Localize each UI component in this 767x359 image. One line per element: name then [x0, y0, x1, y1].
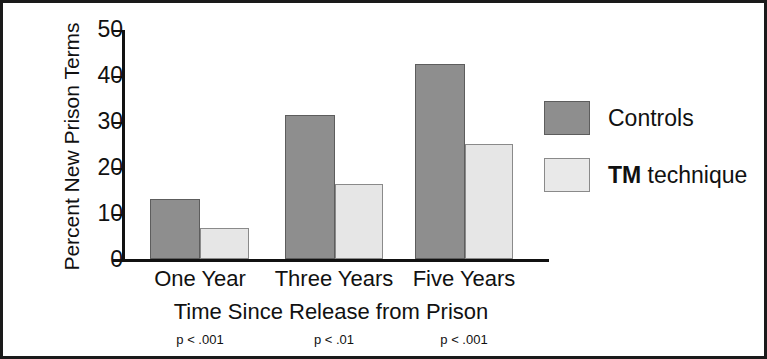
pvalue-three-years: p < .01	[259, 333, 409, 347]
plot-area: 50 40 30 20 10 0 Percent New Prison Term…	[3, 3, 767, 359]
legend-label-tm-technique: TM technique	[608, 164, 747, 187]
legend-swatch-controls-icon	[544, 101, 590, 135]
y-axis-tick-label-50: 50	[83, 18, 123, 41]
legend-item-controls: Controls	[544, 101, 694, 135]
y-axis-tick-label-10: 10	[83, 202, 123, 225]
y-axis-tick-label-20: 20	[83, 156, 123, 179]
legend-label-tm-rest: technique	[641, 162, 747, 188]
x-axis-label-five-years: Five Years	[389, 267, 539, 291]
chart-figure: 50 40 30 20 10 0 Percent New Prison Term…	[0, 0, 767, 359]
legend-item-tm-technique: TM technique	[544, 158, 747, 192]
y-axis-tick-label-30: 30	[83, 110, 123, 133]
pvalue-five-years: p < .001	[389, 333, 539, 347]
y-axis-tick-label-40: 40	[83, 64, 123, 87]
bar-controls-three-years	[285, 115, 335, 259]
bar-controls-one-year	[150, 199, 200, 259]
legend-label-tm-bold: TM	[608, 162, 641, 188]
bar-controls-five-years	[415, 64, 465, 259]
x-axis-label-one-year: One Year	[125, 267, 275, 291]
legend-swatch-tm-icon	[544, 158, 590, 192]
bar-tm-five-years	[465, 144, 513, 259]
x-axis-line	[113, 259, 549, 262]
x-axis-title: Time Since Release from Prison	[113, 300, 549, 324]
legend-label-controls: Controls	[608, 107, 694, 130]
bar-tm-three-years	[335, 184, 383, 259]
y-axis-title: Percent New Prison Terms	[61, 22, 82, 272]
bar-tm-one-year	[200, 228, 249, 259]
x-axis-label-three-years: Three Years	[259, 267, 409, 291]
pvalue-one-year: p < .001	[125, 333, 275, 347]
